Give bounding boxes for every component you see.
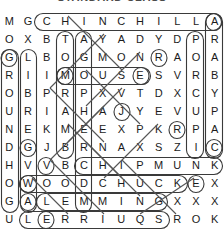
grid-cell[interactable]: M: [0, 12, 19, 30]
grid-cell[interactable]: J: [37, 138, 56, 156]
grid-cell[interactable]: L: [37, 192, 56, 210]
grid-cell[interactable]: I: [149, 12, 168, 30]
grid-cell[interactable]: W: [19, 174, 38, 192]
grid-cell[interactable]: B: [56, 138, 75, 156]
grid-cell[interactable]: A: [112, 138, 131, 156]
grid-cell[interactable]: K: [37, 120, 56, 138]
grid-cell[interactable]: U: [0, 210, 19, 228]
grid-cell[interactable]: S: [149, 138, 168, 156]
grid-cell[interactable]: H: [93, 156, 112, 174]
grid-cell[interactable]: L: [19, 48, 38, 66]
grid-cell[interactable]: C: [187, 84, 206, 102]
grid-cell[interactable]: P: [187, 120, 206, 138]
grid-cell[interactable]: A: [205, 12, 224, 30]
grid-cell[interactable]: B: [19, 84, 38, 102]
grid-cell[interactable]: M: [93, 48, 112, 66]
grid-cell[interactable]: I: [37, 66, 56, 84]
grid-cell[interactable]: G: [149, 192, 168, 210]
grid-cell[interactable]: P: [37, 84, 56, 102]
grid-cell[interactable]: K: [205, 156, 224, 174]
grid-cell[interactable]: C: [93, 174, 112, 192]
grid-cell[interactable]: G: [19, 138, 38, 156]
grid-cell[interactable]: C: [75, 156, 94, 174]
grid-cell[interactable]: P: [187, 30, 206, 48]
grid-cell[interactable]: Y: [149, 30, 168, 48]
grid-cell[interactable]: H: [56, 12, 75, 30]
grid-cell[interactable]: B: [37, 48, 56, 66]
grid-cell[interactable]: E: [75, 120, 94, 138]
grid-cell[interactable]: S: [149, 66, 168, 84]
grid-cell[interactable]: I: [112, 192, 131, 210]
grid-cell[interactable]: B: [56, 156, 75, 174]
grid-cell[interactable]: U: [187, 102, 206, 120]
grid-cell[interactable]: V: [112, 84, 131, 102]
grid-cell[interactable]: X: [19, 30, 38, 48]
grid-cell[interactable]: U: [93, 66, 112, 84]
grid-cell[interactable]: M: [56, 120, 75, 138]
grid-cell[interactable]: A: [56, 102, 75, 120]
grid-cell[interactable]: I: [187, 138, 206, 156]
grid-cell[interactable]: R: [19, 102, 38, 120]
grid-cell[interactable]: H: [0, 156, 19, 174]
grid-cell[interactable]: D: [131, 30, 150, 48]
grid-cell[interactable]: C: [205, 138, 224, 156]
grid-cell[interactable]: S: [112, 66, 131, 84]
grid-cell[interactable]: P: [131, 120, 150, 138]
grid-cell[interactable]: I: [93, 210, 112, 228]
grid-cell[interactable]: D: [75, 174, 94, 192]
grid-cell[interactable]: M: [56, 66, 75, 84]
grid-cell[interactable]: R: [0, 66, 19, 84]
grid-cell[interactable]: Y: [205, 84, 224, 102]
grid-cell[interactable]: N: [0, 120, 19, 138]
grid-cell[interactable]: N: [131, 48, 150, 66]
grid-cell[interactable]: I: [112, 156, 131, 174]
grid-cell[interactable]: C: [112, 12, 131, 30]
grid-cell[interactable]: U: [0, 102, 19, 120]
grid-cell[interactable]: G: [75, 48, 94, 66]
grid-cell[interactable]: Y: [131, 102, 150, 120]
grid-cell[interactable]: G: [0, 192, 19, 210]
grid-cell[interactable]: N: [93, 12, 112, 30]
grid-cell[interactable]: C: [149, 174, 168, 192]
grid-cell[interactable]: O: [56, 48, 75, 66]
grid-cell[interactable]: V: [37, 156, 56, 174]
grid-cell[interactable]: H: [131, 12, 150, 30]
grid-cell[interactable]: E: [131, 66, 150, 84]
grid-cell[interactable]: A: [205, 48, 224, 66]
grid-cell[interactable]: R: [149, 48, 168, 66]
grid-cell[interactable]: T: [56, 30, 75, 48]
grid-cell[interactable]: X: [131, 138, 150, 156]
grid-cell[interactable]: T: [131, 84, 150, 102]
grid-cell[interactable]: X: [205, 192, 224, 210]
grid-cell[interactable]: M: [93, 192, 112, 210]
grid-cell[interactable]: I: [37, 102, 56, 120]
grid-cell[interactable]: K: [168, 174, 187, 192]
grid-cell[interactable]: E: [56, 192, 75, 210]
grid-cell[interactable]: R: [168, 120, 187, 138]
grid-cell[interactable]: L: [168, 12, 187, 30]
grid-cell[interactable]: Z: [168, 138, 187, 156]
grid-cell[interactable]: V: [19, 156, 38, 174]
grid-cell[interactable]: U: [112, 210, 131, 228]
grid-cell[interactable]: R: [205, 30, 224, 48]
grid-cell[interactable]: A: [168, 48, 187, 66]
grid-cell[interactable]: A: [205, 120, 224, 138]
grid-cell[interactable]: U: [168, 156, 187, 174]
grid-cell[interactable]: O: [187, 48, 206, 66]
grid-cell[interactable]: V: [168, 102, 187, 120]
grid-cell[interactable]: N: [93, 138, 112, 156]
grid-cell[interactable]: E: [187, 174, 206, 192]
grid-cell[interactable]: L: [19, 210, 38, 228]
grid-cell[interactable]: B: [37, 30, 56, 48]
grid-cell[interactable]: M: [75, 192, 94, 210]
grid-cell[interactable]: D: [168, 30, 187, 48]
grid-cell[interactable]: N: [187, 156, 206, 174]
grid-cell[interactable]: R: [56, 84, 75, 102]
grid-cell[interactable]: O: [56, 174, 75, 192]
grid-cell[interactable]: X: [112, 120, 131, 138]
grid-cell[interactable]: A: [75, 30, 94, 48]
grid-cell[interactable]: O: [112, 48, 131, 66]
grid-cell[interactable]: E: [93, 120, 112, 138]
grid-cell[interactable]: H: [75, 102, 94, 120]
grid-cell[interactable]: G: [19, 12, 38, 30]
